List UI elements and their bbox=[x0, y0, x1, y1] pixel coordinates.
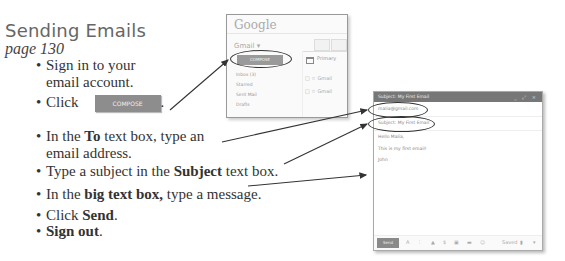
select-checkbox bbox=[314, 39, 330, 51]
page-reference: page 130 bbox=[5, 40, 64, 58]
format-icon[interactable]: A bbox=[406, 239, 409, 245]
step-sign-in: •Sign in to your email account. bbox=[36, 57, 136, 91]
message-body-line[interactable]: Hello Malia, bbox=[378, 134, 404, 139]
compose-highlight-ellipse bbox=[230, 50, 292, 68]
page-title: Sending Emails bbox=[5, 20, 146, 41]
saved-status: Saved bbox=[502, 239, 517, 245]
folder-starred[interactable]: Starred bbox=[236, 82, 253, 87]
folder-inbox[interactable]: Inbox (3) bbox=[236, 72, 256, 77]
email-row[interactable]: □ ☆ Gmail bbox=[305, 88, 332, 94]
folder-sent[interactable]: Sent Mail bbox=[236, 92, 257, 97]
bullet: • bbox=[36, 57, 46, 74]
folder-drafts[interactable]: Drafts bbox=[236, 102, 250, 107]
arrow-to-subject-field bbox=[284, 124, 367, 164]
arrow-to-compose bbox=[170, 60, 228, 110]
gmail-menu: Gmail ▾ bbox=[234, 42, 260, 50]
step-send: •Click Send. bbox=[36, 207, 118, 224]
send-button[interactable]: Send bbox=[377, 238, 399, 248]
message-body-line[interactable]: John bbox=[378, 157, 388, 162]
compose-button-illustration: COMPOSE bbox=[95, 95, 161, 112]
attach-icon[interactable]: ⫶ bbox=[419, 239, 420, 246]
trash-icon[interactable]: ▮ bbox=[520, 239, 523, 245]
step-click-compose: •ClickCOMPOSE. bbox=[36, 94, 164, 112]
compose-toolbar: Send A ⫶ ▲ $ ▣ ▬ ☺ Saved ▮ ▾ bbox=[374, 235, 542, 250]
google-logo: Google bbox=[234, 18, 277, 32]
photo-icon[interactable]: ▣ bbox=[454, 239, 459, 245]
step-sign-out: •Sign out. bbox=[36, 223, 103, 240]
window-controls[interactable]: _ ⤢ × bbox=[514, 92, 538, 102]
drive-icon[interactable]: ▲ bbox=[431, 239, 435, 245]
divider bbox=[302, 51, 303, 118]
step-subject: •Type a subject in the Subject text box. bbox=[36, 163, 278, 180]
divider bbox=[227, 33, 347, 34]
message-body-line[interactable]: This is my first email! bbox=[378, 146, 427, 151]
tab-primary[interactable]: Primary bbox=[317, 55, 336, 61]
refresh-button bbox=[331, 39, 347, 51]
link-icon[interactable]: ▬ bbox=[467, 239, 472, 245]
inbox-icon bbox=[306, 57, 314, 64]
money-icon[interactable]: $ bbox=[443, 239, 446, 245]
emoji-icon[interactable]: ☺ bbox=[480, 239, 485, 245]
subject-field-highlight-ellipse bbox=[368, 116, 435, 132]
step-to-field: •In the To text box, type an email addre… bbox=[36, 128, 204, 162]
email-row[interactable]: □ ☆ Gmail bbox=[305, 75, 332, 81]
divider bbox=[303, 51, 347, 52]
more-options-icon[interactable]: ▾ bbox=[533, 239, 536, 245]
step-message: •In the big text box, type a message. bbox=[36, 186, 261, 203]
